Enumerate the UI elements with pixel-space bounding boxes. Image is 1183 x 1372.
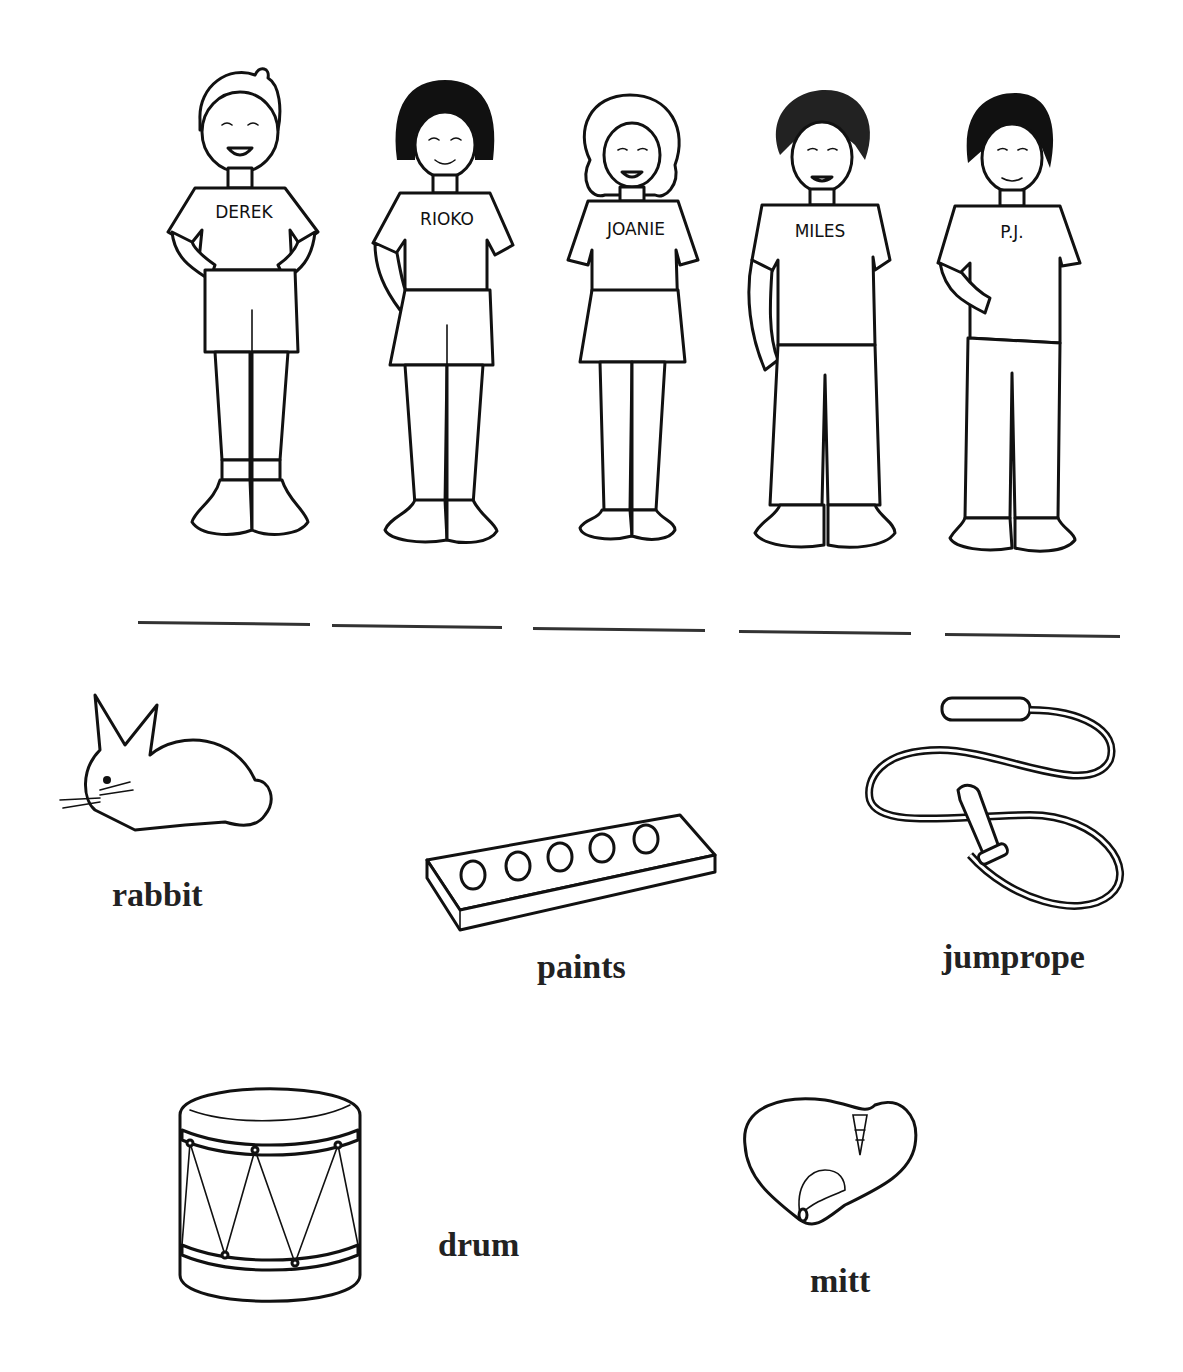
child-derek-figure: DEREK [160, 60, 330, 550]
baseball-mitt-icon [735, 1085, 925, 1245]
child-pj: P.J. [930, 88, 1090, 553]
child-miles: MILES [740, 85, 900, 550]
answer-line-4[interactable] [739, 630, 911, 635]
drum-icon [170, 1085, 370, 1300]
child-joanie: JOANIE [560, 90, 710, 545]
child-miles-figure: MILES [740, 85, 900, 550]
svg-text:JOANIE: JOANIE [606, 219, 665, 239]
svg-text:DEREK: DEREK [215, 202, 273, 222]
svg-text:MILES: MILES [795, 221, 846, 241]
svg-text:P.J.: P.J. [1000, 222, 1023, 242]
label-jumprope: jumprope [942, 938, 1085, 976]
child-rioko: RIOKO [365, 75, 525, 550]
child-joanie-figure: JOANIE [560, 90, 710, 545]
label-drum: drum [438, 1226, 519, 1264]
label-mitt: mitt [810, 1262, 870, 1300]
label-rabbit: rabbit [112, 876, 203, 914]
answer-line-1[interactable] [138, 621, 310, 626]
label-paints: paints [537, 948, 626, 986]
paint-palette-icon [415, 810, 725, 940]
item-rabbit [55, 690, 285, 850]
answer-line-2[interactable] [332, 624, 502, 629]
child-rioko-figure: RIOKO [365, 75, 525, 550]
item-jumprope [860, 690, 1140, 920]
item-drum [170, 1085, 370, 1300]
item-mitt [735, 1085, 925, 1245]
rabbit-icon [55, 690, 285, 850]
item-paints [415, 810, 725, 940]
answer-line-5[interactable] [945, 633, 1120, 638]
child-derek: DEREK [160, 60, 330, 550]
child-pj-figure: P.J. [930, 88, 1090, 553]
svg-text:RIOKO: RIOKO [420, 209, 474, 229]
jumprope-icon [860, 690, 1140, 920]
answer-line-3[interactable] [533, 627, 705, 632]
